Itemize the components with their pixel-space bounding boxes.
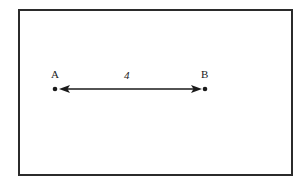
segment-measure-diagram: A B 4 [0, 0, 307, 186]
point-label-a: A [51, 69, 59, 80]
point-marker-b [203, 87, 208, 92]
segment-measure-svg [0, 0, 307, 186]
figure-canvas: A B 4 [0, 0, 307, 186]
point-marker-a [53, 87, 58, 92]
segment-length-label: 4 [124, 70, 130, 81]
point-label-b: B [201, 69, 208, 80]
